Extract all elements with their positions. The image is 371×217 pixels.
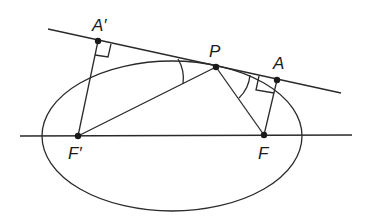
tangent-line bbox=[48, 29, 341, 93]
angle-arc-left bbox=[178, 59, 183, 84]
ellipse-reflection-diagram: A′ P A F′ F bbox=[0, 0, 371, 217]
diagram-canvas: A′ P A F′ F bbox=[0, 0, 371, 217]
label-A: A bbox=[272, 54, 284, 73]
point-F-prime bbox=[75, 133, 81, 139]
label-F: F bbox=[258, 144, 270, 163]
right-angle-marker-A bbox=[256, 76, 274, 93]
segment-F-A bbox=[264, 80, 277, 135]
point-F bbox=[261, 132, 267, 138]
label-F-prime: F′ bbox=[68, 144, 82, 163]
segment-F-prime-P bbox=[78, 67, 216, 136]
point-A-prime bbox=[95, 38, 101, 44]
label-A-prime: A′ bbox=[91, 16, 107, 35]
label-P: P bbox=[209, 42, 221, 61]
angle-arc-right bbox=[239, 75, 250, 98]
point-A bbox=[274, 77, 280, 83]
segment-P-F bbox=[216, 67, 264, 135]
point-P bbox=[213, 64, 219, 70]
